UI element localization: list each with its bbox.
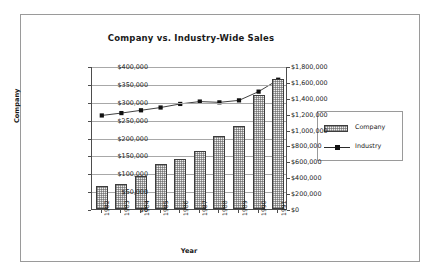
y-axis-tick-mark bbox=[88, 121, 91, 122]
bar-company-1988 bbox=[213, 136, 225, 209]
x-axis-tick-mark bbox=[238, 210, 239, 213]
y2-axis-tick-mark bbox=[287, 194, 290, 195]
x-axis-tick-label-1987: 1987 bbox=[201, 200, 208, 216]
x-axis-tick-label-1990: 1990 bbox=[260, 200, 267, 216]
chart-title: Company vs. Industry-Wide Sales bbox=[21, 33, 361, 43]
bar-company-1989 bbox=[233, 126, 245, 209]
y2-axis-tick-mark bbox=[287, 131, 290, 132]
y2-axis-tick-mark bbox=[287, 178, 290, 179]
y2-axis-tick-mark bbox=[287, 83, 290, 84]
y-axis-tick-mark bbox=[88, 139, 91, 140]
y-axis-tick-mark bbox=[88, 103, 91, 104]
industry-marker-1990 bbox=[257, 90, 261, 94]
x-axis-tick-label-1989: 1989 bbox=[241, 200, 248, 216]
x-axis-tick-mark bbox=[258, 210, 259, 213]
y-axis-tick-mark bbox=[88, 174, 91, 175]
x-axis-tick-label-1991: 1991 bbox=[280, 200, 287, 216]
y2-axis-tick-mark bbox=[287, 162, 290, 163]
x-axis-tick-mark bbox=[140, 210, 141, 213]
industry-marker-1984 bbox=[139, 108, 143, 112]
x-axis-tick-label-1985: 1985 bbox=[162, 200, 169, 216]
y2-axis-tick-mark bbox=[287, 210, 290, 211]
x-axis-tick-label-1986: 1986 bbox=[182, 200, 189, 216]
x-axis-tick-label-1983: 1983 bbox=[123, 200, 130, 216]
x-axis-tick-mark bbox=[277, 210, 278, 213]
y2-axis-tick-label: $1,000,000 bbox=[291, 127, 367, 135]
y2-axis-tick-label: $200,000 bbox=[291, 190, 367, 198]
y-axis-tick-mark bbox=[88, 156, 91, 157]
y2-axis-tick-mark bbox=[287, 146, 290, 147]
x-axis-tick-mark bbox=[179, 210, 180, 213]
y2-axis-tick-label: $800,000 bbox=[291, 142, 367, 150]
y-axis-tick-mark bbox=[88, 67, 91, 68]
y-axis-tick-mark bbox=[88, 192, 91, 193]
bar-company-1990 bbox=[253, 95, 265, 209]
y2-axis-tick-mark bbox=[287, 99, 290, 100]
x-axis-tick-label-1988: 1988 bbox=[221, 200, 228, 216]
y2-axis-tick-label: $1,600,000 bbox=[291, 79, 367, 87]
x-axis-tick-mark bbox=[160, 210, 161, 213]
industry-marker-1983 bbox=[119, 111, 123, 115]
y2-axis-tick-label: $600,000 bbox=[291, 158, 367, 166]
y2-axis-tick-label: $1,200,000 bbox=[291, 111, 367, 119]
y2-axis-tick-mark bbox=[287, 115, 290, 116]
y-axis-tick-mark bbox=[88, 210, 91, 211]
y2-axis-tick-label: $400,000 bbox=[291, 174, 367, 182]
y2-axis-tick-label: $0 bbox=[291, 206, 367, 214]
x-axis-tick-mark bbox=[199, 210, 200, 213]
y2-axis-tick-mark bbox=[287, 67, 290, 68]
x-axis-tick-label-1984: 1984 bbox=[143, 200, 150, 216]
x-axis-tick-mark bbox=[218, 210, 219, 213]
bar-company-1991 bbox=[272, 79, 284, 209]
x-axis-title: Year bbox=[91, 247, 287, 255]
x-axis-tick-mark bbox=[101, 210, 102, 213]
y-axis-tick-mark bbox=[88, 85, 91, 86]
y2-axis-tick-label: $1,800,000 bbox=[291, 63, 367, 71]
x-axis-tick-mark bbox=[120, 210, 121, 213]
chart-frame: Company vs. Industry-Wide Sales Company … bbox=[20, 14, 420, 262]
x-axis-tick-label-1982: 1982 bbox=[103, 200, 110, 216]
industry-marker-1985 bbox=[159, 105, 163, 109]
y2-axis-tick-label: $1,400,000 bbox=[291, 95, 367, 103]
y-axis-title: Company bbox=[13, 89, 21, 123]
